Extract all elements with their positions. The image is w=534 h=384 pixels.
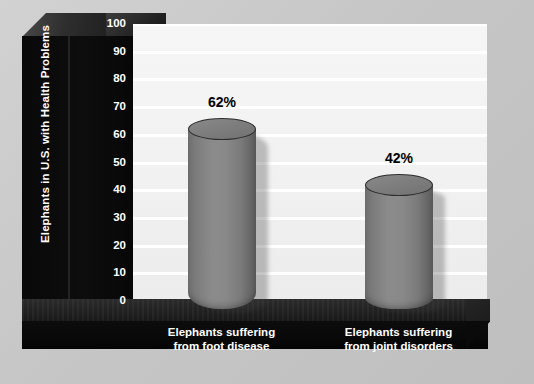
gridline [133,78,487,81]
y-axis-tick-label: 70 [82,101,126,113]
bar-cylinder[interactable] [188,129,256,309]
chart-container: Elephants in U.S. with Health Problems 1… [0,0,534,384]
bar-cylinder[interactable] [365,185,433,309]
y-axis-tick-label: 40 [82,184,126,196]
x-axis-category-line: from joint disorders [309,339,489,353]
x-axis-category-label: Elephants sufferingfrom joint disorders [309,325,489,353]
y-axis-panel-divider [68,36,70,326]
y-axis-tick-label: 80 [82,73,126,85]
y-axis-tick-label: 60 [82,129,126,141]
bar-top-ellipse [365,174,433,196]
y-axis-tick-labels: 1009080706050403020100 [74,24,126,301]
bar-body [365,185,433,309]
y-axis-tick-label: 50 [82,157,126,169]
y-axis-tick-label: 90 [82,46,126,58]
y-axis-tick-label: 10 [82,267,126,279]
gridline [133,134,487,137]
y-axis-tick-label: 20 [82,240,126,252]
x-axis-category-line: Elephants suffering [132,325,312,339]
y-axis-title: Elephants in U.S. with Health Problems [39,4,51,264]
bar-body [188,129,256,309]
gridline [133,51,487,54]
y-axis-tick-label: 0 [82,295,126,307]
x-axis-category-label: Elephants sufferingfrom foot disease [132,325,312,353]
x-axis-category-line: from foot disease [132,339,312,353]
x-axis-category-line: Elephants suffering [309,325,489,339]
gridline [133,24,487,26]
y-axis-tick-label: 100 [82,18,126,30]
bar-value-label: 62% [172,94,272,110]
bar-value-label: 42% [349,150,449,166]
bar-top-ellipse [188,118,256,140]
y-axis-tick-label: 30 [82,212,126,224]
